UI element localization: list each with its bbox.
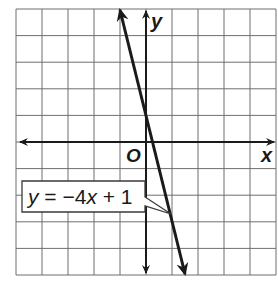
equation-label: y = −4x + 1 [26, 185, 133, 208]
equation-callout: y = −4x + 1 [22, 181, 171, 214]
x-axis-label: x [260, 144, 273, 166]
coordinate-graph: y x O y = −4x + 1 [0, 0, 278, 287]
origin-label: O [126, 145, 141, 166]
line-y-eq-neg4x-plus-1 [120, 10, 153, 142]
y-axis-label: y [150, 10, 163, 32]
